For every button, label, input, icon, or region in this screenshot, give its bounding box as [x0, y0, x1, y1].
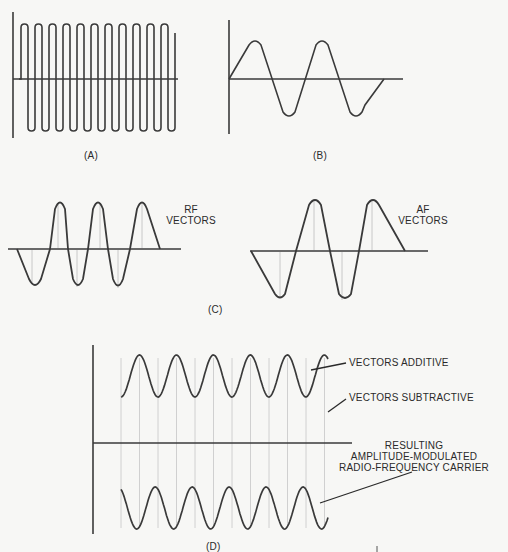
panel-label-d: (D)	[206, 541, 220, 552]
panel-label-a: (A)	[84, 150, 98, 161]
af-vectors-label: AF VECTORS	[398, 204, 448, 226]
panel-label-c: (C)	[208, 304, 222, 315]
panel-label-b: (B)	[313, 150, 327, 161]
panel-c-rf-vectors	[8, 203, 181, 289]
panel-b-af-wave	[229, 20, 403, 134]
am-modulation-figure: (A) (B) (C) (D) RF VECTORS AF VECTORS VE…	[0, 0, 508, 552]
vectors-subtractive-label: VECTORS SUBTRACTIVE	[349, 392, 474, 403]
vectors-additive-label: VECTORS ADDITIVE	[349, 357, 449, 368]
panel-a-rf-wave	[13, 12, 178, 138]
rf-vectors-label: RF VECTORS	[166, 204, 216, 226]
resulting-carrier-label: RESULTING AMPLITUDE-MODULATED RADIO-FREQ…	[334, 440, 494, 473]
